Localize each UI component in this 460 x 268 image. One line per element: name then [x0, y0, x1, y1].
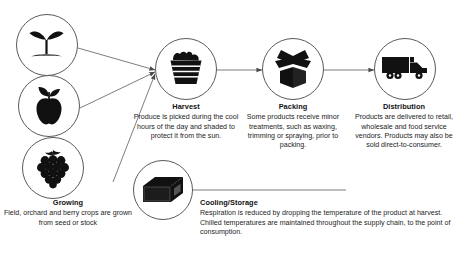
node-seedling: [16, 14, 78, 76]
node-cooling-storage: [133, 160, 193, 220]
caption-cooling-storage: Cooling/Storage Respiration is reduced b…: [200, 199, 455, 237]
node-grapes: [22, 137, 84, 199]
node-apple: [18, 75, 80, 137]
caption-distribution: Distribution Products are delivered to r…: [348, 103, 460, 150]
cooling-storage-title: Cooling/Storage: [200, 199, 455, 208]
grapes-icon: [33, 147, 73, 189]
caption-harvest: Harvest Produce is picked during the coo…: [128, 103, 244, 141]
cooling-storage-body: Respiration is reduced by dropping the t…: [200, 209, 455, 237]
packing-title: Packing: [237, 103, 349, 112]
basket-icon: [165, 50, 207, 88]
caption-growing: Growing Field, orchard and berry crops a…: [2, 199, 134, 228]
seedling-icon: [27, 27, 67, 63]
packing-body: Some products receive minor treatments, …: [237, 113, 349, 150]
distribution-title: Distribution: [348, 103, 460, 112]
node-harvest: [155, 38, 217, 100]
open-box-icon: [271, 48, 315, 90]
harvest-title: Harvest: [128, 103, 244, 112]
truck-icon: [381, 54, 429, 84]
node-packing: [262, 38, 324, 100]
crate-icon: [141, 174, 185, 206]
growing-title: Growing: [2, 199, 134, 208]
apple-icon: [30, 86, 68, 126]
caption-packing: Packing Some products receive minor trea…: [237, 103, 349, 150]
harvest-body: Produce is picked during the cool hours …: [128, 113, 244, 141]
growing-body: Field, orchard and berry crops are grown…: [2, 209, 134, 227]
arrow-seedling-to-harvest: [78, 48, 155, 70]
diagram-canvas: Growing Field, orchard and berry crops a…: [0, 0, 460, 268]
node-distribution: [374, 38, 436, 100]
distribution-body: Products are delivered to retail, wholes…: [348, 113, 460, 150]
